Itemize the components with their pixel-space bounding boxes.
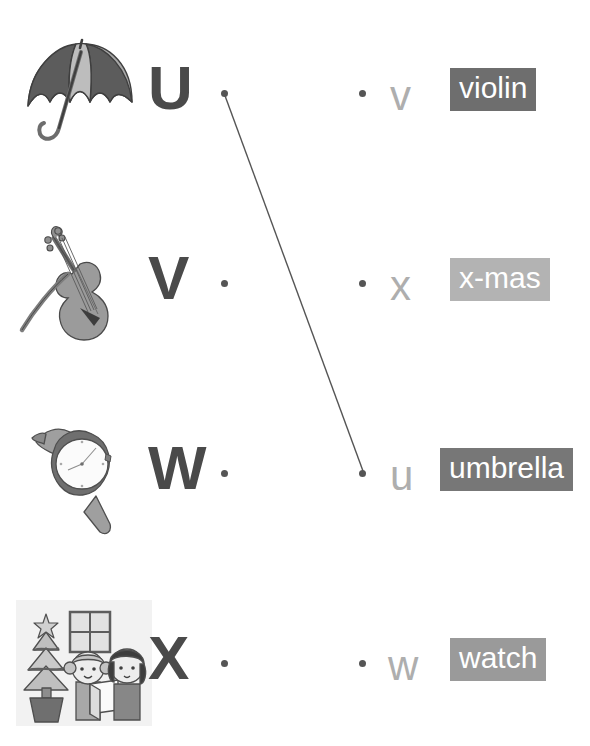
lowercase-letter-x: x — [390, 265, 411, 307]
lowercase-letter-w: w — [388, 645, 418, 687]
capital-letter-v: V — [148, 247, 189, 309]
word-tag-watch: watch — [450, 638, 546, 681]
match-row-u: U v violin — [0, 28, 590, 178]
lowercase-letter-v: v — [390, 75, 411, 117]
right-dot-x[interactable] — [359, 280, 366, 287]
wristwatch-illustration — [14, 408, 144, 538]
worksheet-page: U v violin — [0, 0, 590, 746]
match-row-v: V x x-mas — [0, 218, 590, 368]
left-dot-x[interactable] — [221, 660, 228, 667]
capital-letter-x: X — [148, 627, 189, 689]
word-tag-umbrella: umbrella — [440, 448, 573, 491]
capital-letter-u: U — [148, 57, 193, 119]
umbrella-illustration — [14, 28, 144, 158]
lowercase-letter-u: u — [390, 455, 413, 497]
christmas-illustration — [14, 598, 144, 728]
left-dot-w[interactable] — [221, 470, 228, 477]
right-dot-w[interactable] — [359, 660, 366, 667]
left-dot-v[interactable] — [221, 280, 228, 287]
violin-illustration — [14, 218, 144, 348]
capital-letter-w: W — [148, 437, 207, 499]
right-dot-v[interactable] — [359, 90, 366, 97]
word-tag-violin: violin — [450, 68, 536, 111]
word-tag-x-mas: x-mas — [450, 258, 550, 301]
match-row-x: X w watch — [0, 598, 590, 746]
match-row-w: W u umbrella — [0, 408, 590, 558]
right-dot-u[interactable] — [359, 470, 366, 477]
left-dot-u[interactable] — [221, 90, 228, 97]
